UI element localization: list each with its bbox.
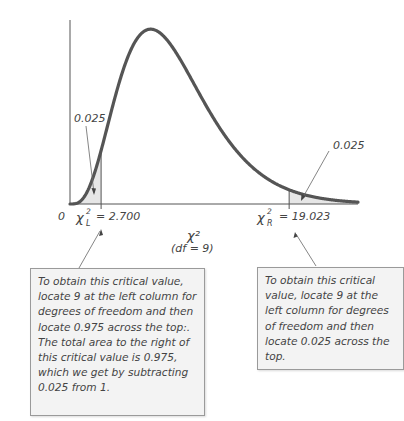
left-critical-symbol: χ [75,210,85,225]
left-critical-value: = 2.700 [96,210,140,223]
right-note-connector [296,234,316,266]
left-critical-value-note: To obtain this critical value, locate 9 … [30,268,205,416]
right-critical-symbol: χ [256,210,266,225]
right-tail-label: 0.025 [333,139,365,152]
right-critical-value-note: To obtain this critical value, locate 9 … [257,267,404,370]
right-critical-superscript: 2 [267,207,272,216]
density-curve [70,29,358,204]
left-critical-superscript: 2 [86,207,91,216]
x-axis-sublabel: (df = 9) [171,242,214,255]
right-critical-subscript: R [267,219,273,228]
left-note-connector [79,231,100,268]
left-tail-label: 0.025 [74,112,106,125]
origin-label: 0 [58,210,65,223]
left-critical-subscript: L [86,219,90,228]
right-critical-value: = 19.023 [279,210,330,223]
right-tail-pointer [302,151,329,199]
x-axis-label: χ² [186,228,200,243]
